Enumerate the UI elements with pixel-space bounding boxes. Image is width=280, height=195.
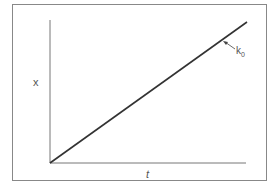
- y-axis-label: x: [33, 76, 39, 88]
- k-subscript: 0: [241, 51, 245, 58]
- arrow-head-icon: [223, 41, 228, 45]
- plot: [0, 0, 280, 195]
- slope-annotation: k0: [236, 45, 245, 58]
- data-line: [50, 22, 247, 163]
- x-axis-label: t: [146, 168, 149, 180]
